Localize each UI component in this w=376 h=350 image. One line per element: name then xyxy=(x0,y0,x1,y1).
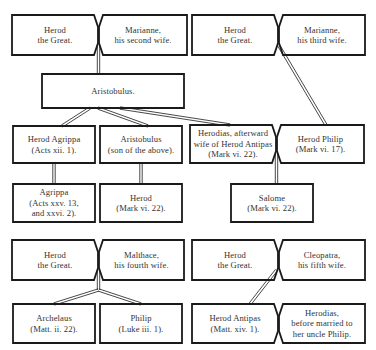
label-line: Herod xyxy=(44,25,66,36)
label-line: the Great. xyxy=(38,35,73,46)
label-line: and xxvi. 2). xyxy=(32,208,77,219)
label-line: Herod xyxy=(224,250,246,261)
label-line: Marianne, xyxy=(304,25,340,36)
person-label-cleopatra: Cleopatra,his fifth wife. xyxy=(285,240,359,280)
person-label-mariamne3: Marianne,his third wife. xyxy=(285,15,359,55)
label-line: the Great. xyxy=(38,260,73,271)
person-label-herodias2: Herodias,before married toher uncle Phil… xyxy=(285,304,359,343)
person-label-agrippa: Agrippa(Acts xxv. 13,and xxvi. 2). xyxy=(19,184,89,222)
label-line: Herodias, xyxy=(305,308,339,319)
person-label-herod-philip: Herod Philip(Mark vi. 17). xyxy=(283,125,358,163)
label-line: before married to xyxy=(291,318,352,329)
label-line: Herod xyxy=(44,250,66,261)
label-line: Herod Philip xyxy=(298,134,343,145)
person-label-herod-antipas: Herod Antipas(Matt. xiv. 1). xyxy=(198,304,272,343)
label-line: (Matt. ii. 22). xyxy=(30,324,78,335)
person-label-salome: Salome(Mark vi. 22). xyxy=(237,184,307,222)
person-label-herod4: Herodthe Great. xyxy=(198,240,272,280)
label-line: her uncle Philip. xyxy=(293,329,351,340)
label-line: Agrippa xyxy=(40,187,69,198)
person-label-herod3: Herodthe Great. xyxy=(18,240,92,280)
label-line: Marianne, xyxy=(125,25,161,36)
label-line: his fourth wife. xyxy=(114,260,168,271)
person-label-philip: Philip(Luke iii. 1). xyxy=(106,304,176,343)
descent-line-philip xyxy=(98,289,141,305)
label-line: Malthace, xyxy=(124,250,159,261)
label-line: Herodias, afterward xyxy=(198,128,268,139)
person-label-aristobulus: Aristobulus. xyxy=(48,74,178,108)
label-line: (Mark vi. 17). xyxy=(296,144,346,155)
label-line: Herod xyxy=(130,193,152,204)
label-line: (Matt. xiv. 1). xyxy=(211,324,260,335)
label-line: (Luke iii. 1). xyxy=(119,324,164,335)
person-label-herod-son: Herod(Mark vi. 22). xyxy=(106,184,176,222)
label-line: the Great. xyxy=(218,35,253,46)
label-line: Herod Agrippa xyxy=(28,134,81,145)
label-line: Herod Antipas xyxy=(209,313,260,324)
descent-line-malthace-stem xyxy=(97,270,99,290)
person-label-archelaus: Archelaus(Matt. ii. 22). xyxy=(19,304,89,343)
descent-line-salome xyxy=(275,153,277,184)
person-label-mariamne2: Marianne,his second wife. xyxy=(105,15,181,55)
label-line: his second wife. xyxy=(114,35,171,46)
person-label-aristobulus-son: Aristobulus(son of the above). xyxy=(106,126,176,163)
label-line: (Acts xii. 1). xyxy=(32,145,77,156)
person-label-herod2: Herodthe Great. xyxy=(198,15,272,55)
label-line: wife of Herod Antipas xyxy=(194,139,273,150)
person-label-malthace: Malthace,his fourth wife. xyxy=(105,240,178,280)
label-line: his fifth wife. xyxy=(298,260,346,271)
label-line: (Acts xxv. 13, xyxy=(29,198,79,209)
descent-line-agrippa xyxy=(53,163,55,184)
label-line: Philip xyxy=(130,313,151,324)
label-line: (Mark vi. 22). xyxy=(208,149,258,160)
label-line: (son of the above). xyxy=(108,145,174,156)
descent-line-herod-philip xyxy=(277,44,327,125)
descent-line-aristobulus xyxy=(97,45,99,74)
label-line: Archelaus xyxy=(36,313,72,324)
label-line: (Mark vi. 22). xyxy=(247,203,297,214)
descent-line-herod-son xyxy=(140,163,142,184)
label-line: Salome xyxy=(259,193,285,204)
person-label-herod1: Herodthe Great. xyxy=(18,15,92,55)
label-line: Cleopatra, xyxy=(304,250,341,261)
label-line: (Mark vi. 22). xyxy=(116,203,166,214)
label-line: Aristobulus xyxy=(120,134,161,145)
descent-line-herod-agrippa xyxy=(61,107,90,127)
label-line: Herod xyxy=(224,25,246,36)
person-label-herodias: Herodias, afterwardwife of Herod Antipas… xyxy=(196,125,270,163)
label-line: the Great. xyxy=(218,260,253,271)
descent-line-archelaus xyxy=(54,289,99,305)
person-label-herod-agrippa: Herod Agrippa(Acts xii. 1). xyxy=(19,126,89,163)
label-line: his third wife. xyxy=(297,35,346,46)
label-line: Aristobulus. xyxy=(91,86,134,97)
